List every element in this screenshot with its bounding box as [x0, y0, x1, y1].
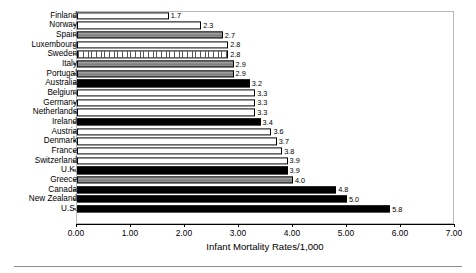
y-axis-tick: [73, 93, 76, 94]
y-axis-tick: [73, 208, 76, 209]
y-axis-tick: [73, 54, 76, 55]
bar-value-label: 4.0: [295, 176, 305, 183]
y-axis-tick: [73, 44, 76, 45]
bar-row: Greece4.0: [0, 175, 476, 185]
bar-value-label: 2.9: [236, 70, 246, 77]
y-axis-tick: [73, 73, 76, 74]
bar-wrapper: 3.9: [77, 167, 288, 174]
bar-row: Norway2.3: [0, 21, 476, 31]
bar-row: Denmark3.7: [0, 137, 476, 147]
y-axis-tick: [73, 15, 76, 16]
bar-wrapper: 2.8: [77, 41, 228, 48]
bar-value-label: 3.3: [257, 89, 267, 96]
bar-row: Germany3.3: [0, 98, 476, 108]
x-axis-tick-label: 6.00: [392, 229, 408, 237]
bar-row: U.K.3.9: [0, 166, 476, 176]
bar-wrapper: 3.4: [77, 118, 261, 125]
x-axis-tick-label: 5.00: [338, 229, 354, 237]
bar-wrapper: 5.0: [77, 196, 347, 203]
y-axis-tick: [73, 64, 76, 65]
bar-row: Austria3.6: [0, 127, 476, 137]
bar-wrapper: 3.3: [77, 89, 255, 96]
bar-wrapper: 3.6: [77, 128, 271, 135]
bar: 2.9: [77, 70, 234, 77]
bar-wrapper: 2.3: [77, 22, 201, 29]
bar-value-label: 1.7: [171, 12, 181, 19]
bar: 3.9: [77, 167, 288, 174]
y-axis-tick: [73, 141, 76, 142]
bar-value-label: 5.0: [349, 196, 359, 203]
y-axis-tick: [73, 199, 76, 200]
bar-row: Netherlands3.3: [0, 108, 476, 118]
y-axis-tick: [73, 83, 76, 84]
bar-row: France3.8: [0, 146, 476, 156]
x-axis-ticks: 0.001.002.003.004.005.006.007.00: [76, 224, 454, 242]
bar-value-label: 3.2: [252, 80, 262, 87]
bar: 2.9: [77, 61, 234, 68]
bar-wrapper: 3.8: [77, 147, 282, 154]
bar-row: U.S.5.8: [0, 204, 476, 214]
bar: 4.0: [77, 176, 293, 183]
bar-wrapper: 3.2: [77, 80, 250, 87]
bar-row: Australia3.2: [0, 79, 476, 89]
bar-value-label: 2.3: [203, 22, 213, 29]
infant-mortality-bar-chart: Finland1.7Norway2.3Spain2.7Luxembourg2.8…: [0, 0, 476, 273]
x-axis-tick-label: 7.00: [446, 229, 462, 237]
bar-value-label: 2.7: [225, 31, 235, 38]
category-label: Netherlands: [33, 108, 77, 116]
bar: 5.8: [77, 205, 390, 212]
bar-row: Switzerland3.9: [0, 156, 476, 166]
bar: 2.8: [77, 51, 228, 58]
y-axis-tick: [73, 112, 76, 113]
x-axis-tick: [238, 224, 239, 227]
x-axis-tick-label: 0.00: [68, 229, 84, 237]
bar: 3.6: [77, 128, 271, 135]
bar-wrapper: 3.9: [77, 157, 288, 164]
bar: 3.2: [77, 80, 250, 87]
bar-wrapper: 3.3: [77, 109, 255, 116]
bar: 4.8: [77, 186, 336, 193]
x-axis-tick: [454, 224, 455, 227]
category-label: New Zealand: [29, 195, 77, 203]
bar-value-label: 2.8: [230, 51, 240, 58]
y-axis-tick: [73, 102, 76, 103]
x-axis-tick-label: 3.00: [230, 229, 246, 237]
bar-row: Canada4.8: [0, 185, 476, 195]
bar-row: Finland1.7: [0, 11, 476, 21]
bar: 3.8: [77, 147, 282, 154]
bar-wrapper: 2.7: [77, 32, 223, 39]
bar: 3.9: [77, 157, 288, 164]
bar: 5.0: [77, 196, 347, 203]
y-axis-tick: [73, 189, 76, 190]
x-axis-tick: [400, 224, 401, 227]
bar: 3.3: [77, 99, 255, 106]
x-axis-tick-label: 4.00: [284, 229, 300, 237]
bar: 1.7: [77, 12, 169, 19]
bar-value-label: 3.9: [290, 167, 300, 174]
bar-value-label: 3.9: [290, 157, 300, 164]
bar: 2.8: [77, 41, 228, 48]
bar-wrapper: 3.7: [77, 138, 277, 145]
y-axis-tick: [73, 160, 76, 161]
bar-value-label: 3.6: [273, 128, 283, 135]
bar-value-label: 3.3: [257, 109, 267, 116]
bar-value-label: 3.8: [284, 147, 294, 154]
bar-value-label: 5.8: [392, 205, 402, 212]
bar-wrapper: 4.0: [77, 176, 293, 183]
bar-wrapper: 1.7: [77, 12, 169, 19]
bar-row: Sweden2.8: [0, 50, 476, 60]
bar: 3.7: [77, 138, 277, 145]
category-label: Germany: [43, 99, 77, 107]
x-axis-tick: [292, 224, 293, 227]
y-axis-tick: [73, 151, 76, 152]
bar-wrapper: 5.8: [77, 205, 390, 212]
category-label: Switzerland: [35, 157, 77, 165]
category-label: Luxembourg: [31, 41, 77, 49]
bar-row: Spain2.7: [0, 30, 476, 40]
bar: 3.3: [77, 89, 255, 96]
x-axis-tick: [184, 224, 185, 227]
bar-value-label: 3.3: [257, 99, 267, 106]
bar: 2.7: [77, 32, 223, 39]
x-axis-title: Infant Mortality Rates/1,000: [76, 242, 454, 252]
bar-wrapper: 3.3: [77, 99, 255, 106]
